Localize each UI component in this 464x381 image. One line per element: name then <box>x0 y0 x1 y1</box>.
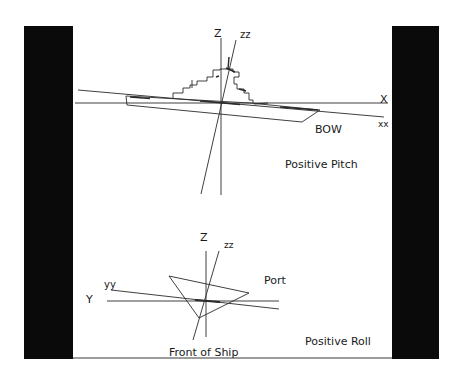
roll-y-label: Y <box>85 293 93 306</box>
positive-roll-caption: Positive Roll <box>305 335 371 348</box>
ship-detail <box>216 76 219 77</box>
roll-yy-label: yy <box>104 279 116 290</box>
ship-motion-figure: Z zz X xx BOW Positive Pitch Z zz Y yy P… <box>0 0 464 381</box>
port-label: Port <box>264 274 286 287</box>
ship-superstructure <box>173 69 253 103</box>
ship-detail <box>239 89 246 91</box>
roll-zz-label: zz <box>224 240 234 250</box>
pitch-zz-label: zz <box>240 29 251 40</box>
diagram-canvas: Z zz X xx BOW Positive Pitch Z zz Y yy P… <box>0 0 464 381</box>
pitch-xx-label: xx <box>378 119 389 129</box>
roll-center-mark <box>195 300 220 302</box>
positive-pitch-caption: Positive Pitch <box>285 158 358 171</box>
pitch-x-label: X <box>380 93 388 106</box>
ship-main-mast <box>228 57 229 69</box>
roll-diagram <box>107 251 279 340</box>
front-of-ship-label: Front of Ship <box>169 346 238 359</box>
roll-yy-axis <box>111 290 279 309</box>
pitch-diagram <box>75 38 388 195</box>
pitch-zz-axis <box>201 40 236 194</box>
roll-z-label: Z <box>200 231 208 244</box>
bow-label: BOW <box>315 123 342 136</box>
ship-cross-section <box>169 276 249 318</box>
pitch-z-label: Z <box>214 27 222 40</box>
